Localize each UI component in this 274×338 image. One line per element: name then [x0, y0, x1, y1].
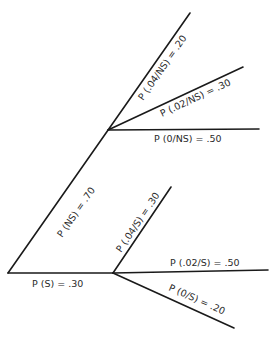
- label-p-04-ns: P (.04/NS) = .20: [136, 33, 189, 102]
- edge-s-02: [113, 270, 268, 273]
- probability-tree-diagram: P (NS) = .70 P (S) = .30 P (.04/NS) = .2…: [0, 0, 274, 338]
- label-p-0-ns: P (0/NS) = .50: [154, 133, 222, 144]
- label-p-02-s: P (.02/S) = .50: [170, 257, 240, 268]
- edge-ns-02: [108, 67, 243, 130]
- label-p-04-s: P (.04/S) = .30: [114, 190, 162, 254]
- edge-s-04: [113, 187, 171, 273]
- tree-canvas: P (NS) = .70 P (S) = .30 P (.04/NS) = .2…: [0, 0, 274, 338]
- label-p-ns: P (NS) = .70: [55, 185, 98, 239]
- edge-ns-0: [108, 129, 259, 130]
- label-p-02-ns: P (.02/NS) = .30: [158, 76, 232, 118]
- label-p-s: P (S) = .30: [32, 278, 83, 289]
